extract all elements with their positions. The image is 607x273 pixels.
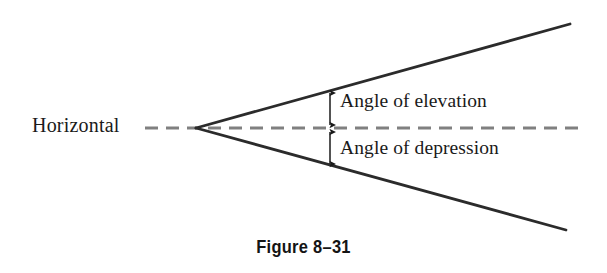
label-horizontal: Horizontal <box>32 114 120 137</box>
line-of-sight-upward <box>196 24 570 128</box>
figure-container: Horizontal Angle of elevation Angle of d… <box>0 0 607 273</box>
label-angle-of-depression: Angle of depression <box>340 137 499 159</box>
figure-caption: Figure 8–31 <box>18 237 589 258</box>
label-angle-of-elevation: Angle of elevation <box>340 90 487 112</box>
